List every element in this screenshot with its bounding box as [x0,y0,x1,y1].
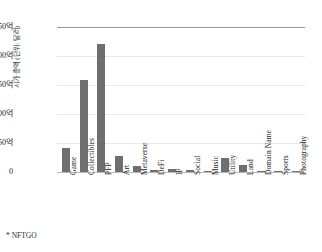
bar-music [204,27,212,172]
x-axis-tick-label: Music [211,156,220,175]
x-axis-tick-label: Art [122,165,131,175]
x-axis-tick-label: PFP [104,162,113,175]
bar-ip [168,27,176,172]
bar-sports [274,27,282,172]
x-axis-tick-labels: GameCollectiblesPFPArtMetaverseDeFiIPSoc… [57,172,305,250]
bar-land [239,27,247,172]
y-axis-tick-label: 150억 [0,81,13,89]
bar-pfp [97,27,105,172]
bar-defi [150,27,158,172]
y-axis-tick-label: 50억 [0,139,13,147]
x-axis-tick-label: IP [175,168,184,175]
bar-game [62,27,70,172]
x-axis-tick-label: Utility [228,155,237,175]
source-footnote: * NFTGO [6,231,37,240]
market-cap-bar-chart: 시가 총액 (단위: 달러) 250억200억150억100억50억0 Game… [0,0,322,252]
x-axis-tick-label: Land [246,159,255,175]
y-axis-tick-label: 0 [0,168,13,176]
x-axis-tick-label: Collectibles [87,138,96,175]
x-axis-tick-label: Sports [281,155,290,175]
bar-rect [97,44,105,172]
x-axis-tick-label: Domain Name [264,130,273,175]
x-axis-tick-label: Game [69,157,78,175]
bar-utility [221,27,229,172]
y-axis-tick-label: 250억 [0,23,13,31]
x-axis-tick-label: Metaverse [140,143,149,175]
x-axis-tick-label: DeFi [157,160,166,175]
y-axis-tick-label: 100억 [0,110,13,118]
bar-art [115,27,123,172]
bar-social [186,27,194,172]
x-axis-tick-label: Photography [299,136,308,175]
y-axis-tick-label: 200억 [0,52,13,60]
x-axis-tick-label: Social [193,156,202,175]
